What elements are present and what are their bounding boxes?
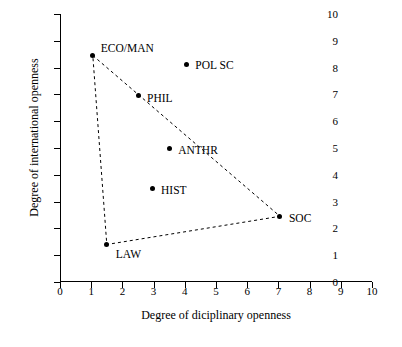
y-tick-mark <box>54 228 60 229</box>
scatter-chart: 012345678910012345678910 ECO/MANPOL SCPH… <box>0 0 402 347</box>
y-tick-label: 7 <box>318 89 338 100</box>
x-axis-title: Degree of diciplinary openness <box>60 308 372 323</box>
y-tick-mark <box>54 94 60 95</box>
y-tick-label: 3 <box>318 197 338 208</box>
x-tick-mark <box>185 282 186 288</box>
x-tick-mark <box>91 282 92 288</box>
x-tick-mark <box>341 282 342 288</box>
y-tick-mark <box>54 202 60 203</box>
x-tick-mark <box>310 282 311 288</box>
data-point-label: ANTHR <box>178 144 218 156</box>
data-point-label: ECO/MAN <box>101 42 154 54</box>
x-tick-mark <box>216 282 217 288</box>
y-tick-label: 1 <box>318 250 338 261</box>
data-point <box>167 146 172 151</box>
y-tick-mark <box>54 41 60 42</box>
y-tick-mark <box>54 121 60 122</box>
x-tick-mark <box>372 282 373 288</box>
x-tick-mark <box>60 282 61 288</box>
data-point-label: POL SC <box>195 59 233 71</box>
y-axis-title: Degree of international openness <box>27 8 42 268</box>
data-point <box>136 93 141 98</box>
x-tick-mark <box>278 282 279 288</box>
y-tick-mark <box>54 68 60 69</box>
y-tick-label: 9 <box>318 36 338 47</box>
y-tick-mark <box>54 148 60 149</box>
y-tick-label: 10 <box>318 9 338 20</box>
data-point-label: SOC <box>289 212 311 224</box>
x-tick-mark <box>247 282 248 288</box>
data-point-label: PHIL <box>147 92 173 104</box>
x-tick-mark <box>154 282 155 288</box>
y-tick-mark <box>54 14 60 15</box>
x-tick-mark <box>122 282 123 288</box>
data-point <box>150 186 155 191</box>
y-tick-label: 8 <box>318 63 338 74</box>
y-tick-mark <box>54 255 60 256</box>
y-tick-label: 4 <box>318 170 338 181</box>
y-tick-label: 5 <box>318 143 338 154</box>
y-tick-label: 2 <box>318 223 338 234</box>
data-point-label: LAW <box>116 248 141 260</box>
y-tick-mark <box>54 175 60 176</box>
data-point-label: HIST <box>161 184 187 196</box>
y-tick-label: 6 <box>318 116 338 127</box>
